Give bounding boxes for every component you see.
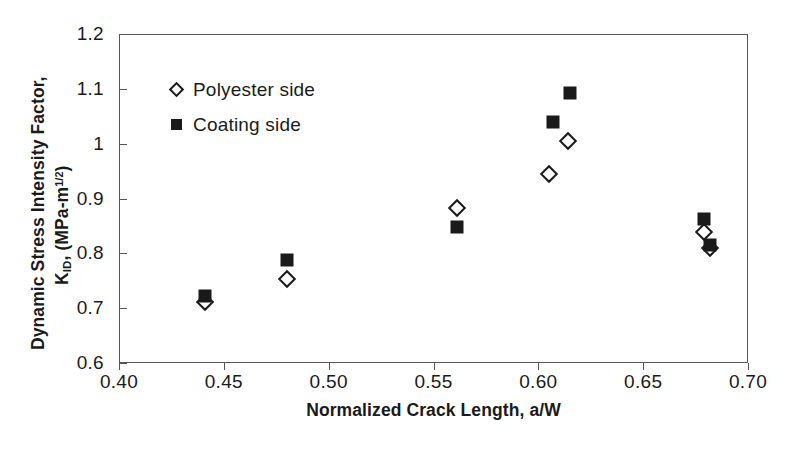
y-tick: [119, 363, 127, 364]
scatter-chart-figure: 0.60.70.80.911.11.2 0.400.450.500.550.60…: [0, 0, 786, 469]
data-point-coating-side: [280, 254, 293, 267]
data-point-coating-side: [704, 239, 717, 252]
data-point-coating-side: [697, 213, 710, 226]
legend-item-coating-side: Coating side: [168, 112, 301, 136]
y-tick: [119, 89, 127, 90]
x-tick: [538, 363, 539, 370]
y-tick: [119, 308, 127, 309]
data-point-coating-side: [450, 221, 463, 234]
legend-label-coating-side: Coating side: [193, 115, 301, 134]
y-tick: [119, 199, 127, 200]
x-tick: [329, 363, 330, 370]
x-tick: [434, 363, 435, 370]
data-point-coating-side: [547, 115, 560, 128]
data-point-coating-side: [563, 86, 576, 99]
y-axis-title-subscript: ID: [61, 261, 73, 273]
y-tick: [119, 253, 127, 254]
x-tick: [748, 363, 749, 370]
x-tick: [224, 363, 225, 370]
y-axis-title-line2: KID, (MPa-m1/2): [52, 165, 73, 285]
y-axis-title-close-paren: ): [52, 165, 72, 171]
open-diamond-icon: [168, 80, 186, 98]
data-point-coating-side: [198, 289, 211, 302]
legend-label-polyester-side: Polyester side: [193, 80, 315, 99]
y-axis-title: Dynamic Stress Intensity Factor, KID, (M…: [0, 0, 120, 380]
legend-item-polyester-side: Polyester side: [168, 77, 315, 101]
x-tick: [643, 363, 644, 370]
y-tick: [119, 34, 127, 35]
y-axis-title-superscript: 1/2: [53, 171, 65, 186]
filled-square-icon: [168, 115, 186, 133]
y-axis-title-units: , (MPa-m: [52, 187, 72, 261]
y-axis-title-k: K: [52, 272, 72, 285]
y-tick: [119, 144, 127, 145]
y-axis-title-line1: Dynamic Stress Intensity Factor,: [28, 76, 49, 350]
x-axis-title: Normalized Crack Length, a/W: [119, 400, 748, 421]
